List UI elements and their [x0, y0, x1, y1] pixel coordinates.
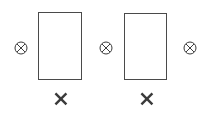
rectangle-outline[interactable]: [124, 13, 167, 80]
diagram-canvas: [0, 0, 207, 134]
circled-x-icon[interactable]: [182, 40, 198, 56]
x-mark-icon[interactable]: [139, 91, 155, 107]
circled-x-icon[interactable]: [98, 40, 114, 56]
rectangle-outline[interactable]: [38, 12, 82, 80]
x-mark-icon[interactable]: [53, 91, 69, 107]
circled-x-icon[interactable]: [13, 40, 29, 56]
